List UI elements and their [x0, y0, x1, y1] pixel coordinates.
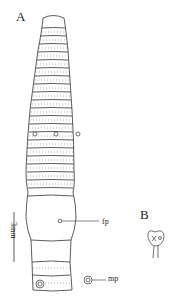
earthworm-drawing — [0, 0, 182, 305]
